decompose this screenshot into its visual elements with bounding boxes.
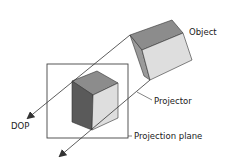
projection-plane-label: Projection plane xyxy=(134,132,202,141)
projector-leader xyxy=(137,92,152,100)
projector-label: Projector xyxy=(154,97,192,106)
dop-label: DOP xyxy=(11,122,29,131)
projected-cube xyxy=(72,71,118,130)
object-cube xyxy=(130,20,192,80)
object-label: Object xyxy=(189,28,217,37)
